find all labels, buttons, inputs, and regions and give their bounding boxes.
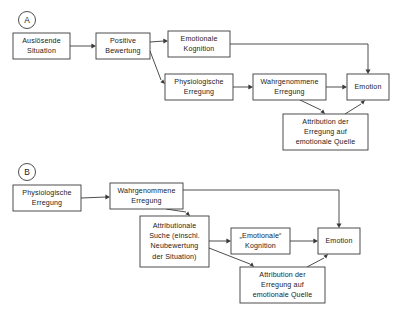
box-ausloesende-situation-line-1: Situation — [27, 47, 56, 55]
arrow-head — [366, 69, 371, 74]
panel-b: PhysiologischeErregungWahrgenommeneErreg… — [13, 164, 360, 304]
arrow-head — [249, 262, 254, 267]
arrow-kognition-to-emotion — [290, 239, 318, 244]
box-wahrgenommene-erregung-line-1: Erregung — [131, 197, 161, 205]
arrow-kognition-to-emotion — [230, 44, 371, 74]
box-physiologische-erregung-line-1: Erregung — [184, 88, 214, 96]
box-wahrgenommene-erregung-line-1: Erregung — [274, 88, 304, 96]
box-attribution-erregung-emotionale-quelle-line-2: emotionale Quelle — [253, 291, 313, 299]
box-attribution-erregung-emotionale-quelle-line-1: Erregung auf — [304, 128, 347, 136]
panel-label-letter: B — [24, 167, 30, 177]
box-attribution-erregung-emotionale-quelle: Attribution derErregung aufemotionale Qu… — [240, 267, 325, 303]
arrow-head — [323, 254, 328, 259]
arrow-suche-to-kognition — [209, 239, 231, 244]
box-wahrgenommene-erregung: WahrgenommeneErregung — [110, 183, 183, 209]
arrow-head — [313, 239, 318, 244]
arrow-bewertung-to-kognition-line — [150, 41, 164, 42]
arrow-head — [342, 85, 347, 90]
box-emotionale-kognition-line-0: Emotionale — [181, 35, 218, 43]
box-emotionale-kognition: „Emotionale“Kognition — [231, 228, 290, 254]
box-wahrgenommene-erregung-line-0: Wahrgenommene — [117, 187, 175, 195]
box-ausloesende-situation: AuslösendeSituation — [13, 33, 70, 59]
panel-label-b: B — [19, 164, 36, 181]
box-wahrgenommene-erregung-line-0: Wahrgenommene — [260, 78, 318, 86]
box-physiologische-erregung-line-0: Physiologische — [22, 189, 71, 197]
box-physiologische-erregung-line-0: Physiologische — [174, 78, 223, 86]
arrow-head — [248, 85, 253, 90]
box-wahrgenommene-erregung: WahrgenommeneErregung — [253, 74, 326, 100]
box-attribution-erregung-emotionale-quelle-line-2: emotionale Quelle — [296, 138, 356, 146]
box-physiologische-erregung: PhysiologischeErregung — [165, 74, 233, 100]
box-attributionale-suche-line-2: Neubewertung — [151, 242, 199, 250]
panel-label-a: A — [19, 12, 36, 29]
arrow-physiologische-to-wahrgenommene — [81, 195, 110, 200]
arrow-head — [105, 195, 110, 200]
arrow-attribution-to-emotion — [307, 254, 328, 267]
flowchart-canvas: AuslösendeSituationPositiveBewertungEmot… — [0, 0, 397, 313]
box-attributionale-suche-line-0: Attributionale — [153, 222, 197, 230]
arrow-attribution-to-emotion-line — [307, 258, 324, 267]
arrow-wahrgenommene-to-suche — [166, 209, 190, 216]
box-attribution-erregung-emotionale-quelle-line-0: Attribution der — [259, 271, 306, 279]
box-attributionale-suche-line-1: Suche (einschl. — [149, 232, 200, 240]
box-emotionale-kognition: EmotionaleKognition — [168, 31, 230, 57]
box-physiologische-erregung-line-1: Erregung — [32, 199, 62, 207]
arrow-head — [337, 223, 342, 228]
arrow-head — [160, 79, 165, 84]
arrow-situation-to-bewertung — [70, 44, 96, 49]
arrow-physiologische-to-wahrgenommene-line — [81, 197, 106, 198]
box-positive-bewertung: PositiveBewertung — [96, 33, 150, 59]
box-attribution-erregung-emotionale-quelle: Attribution derErregung aufemotionale Qu… — [283, 114, 368, 150]
box-emotion: Emotion — [318, 228, 360, 254]
arrow-kognition-to-emotion-line — [230, 44, 368, 70]
arrow-attribution-to-emotion-line — [345, 104, 361, 114]
box-emotionale-kognition-line-1: Kognition — [184, 45, 215, 53]
box-ausloesende-situation-line-0: Auslösende — [22, 37, 61, 45]
box-emotionale-kognition-line-0: „Emotionale“ — [239, 232, 282, 240]
arrow-physiologische-to-wahrgenommene — [233, 85, 253, 90]
panel-label-letter: A — [24, 15, 30, 25]
box-positive-bewertung-line-0: Positive — [110, 37, 136, 45]
arrow-head — [163, 39, 168, 44]
box-attributionale-suche: AttributionaleSuche (einschl.Neubewertun… — [140, 216, 209, 267]
arrow-bewertung-to-physiologische-line — [150, 51, 161, 80]
flowchart-figure: AuslösendeSituationPositiveBewertungEmot… — [0, 0, 397, 313]
box-attribution-erregung-emotionale-quelle-line-1: Erregung auf — [261, 281, 304, 289]
box-attributionale-suche-line-3: der Situation) — [152, 253, 196, 261]
arrow-bewertung-to-kognition — [150, 39, 168, 44]
box-emotion-line-0: Emotion — [325, 237, 352, 245]
arrow-head — [91, 44, 96, 49]
arrow-head — [185, 211, 190, 216]
arrow-wahrgenommene-to-attribution — [300, 100, 325, 114]
box-attribution-erregung-emotionale-quelle-line-0: Attribution der — [302, 118, 349, 126]
box-emotion: Emotion — [347, 74, 389, 100]
box-physiologische-erregung: PhysiologischeErregung — [13, 185, 81, 211]
box-emotion-line-0: Emotion — [354, 83, 381, 91]
arrow-wahrgenommene-to-attribution-line — [300, 100, 321, 110]
arrow-attribution-to-emotion — [345, 100, 365, 114]
arrow-head — [226, 239, 231, 244]
arrow-wahrgenommene-to-emotion — [326, 85, 347, 90]
arrow-bewertung-to-physiologische — [150, 51, 165, 84]
panel-a: AuslösendeSituationPositiveBewertungEmot… — [13, 12, 389, 151]
arrow-head — [360, 100, 365, 105]
arrow-head — [320, 109, 325, 114]
box-positive-bewertung-line-1: Bewertung — [105, 47, 140, 55]
box-emotionale-kognition-line-1: Kognition — [245, 242, 276, 250]
